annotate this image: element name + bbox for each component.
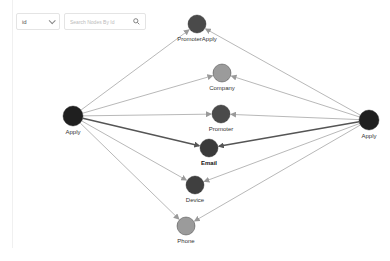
node-apply-left[interactable]: Apply xyxy=(63,106,83,135)
node-circle[interactable] xyxy=(177,217,195,235)
node-circle[interactable] xyxy=(186,176,204,194)
edge-apply-right-email[interactable] xyxy=(219,122,359,147)
node-circle[interactable] xyxy=(212,105,230,123)
node-label: Apply xyxy=(361,133,376,139)
node-phone[interactable]: Phone xyxy=(177,217,195,244)
edge-apply-right-phone[interactable] xyxy=(195,125,361,221)
graph-canvas[interactable]: ApplyApplyPromoterApplyCompanyPromoterEm… xyxy=(0,0,390,261)
node-circle[interactable] xyxy=(200,139,218,157)
node-promoter[interactable]: Promoter xyxy=(209,105,234,132)
node-label: Apply xyxy=(65,129,80,135)
node-label: Promoter xyxy=(209,126,234,132)
node-label: PromoterApply xyxy=(177,36,217,42)
node-circle[interactable] xyxy=(359,110,379,130)
node-layer: ApplyApplyPromoterApplyCompanyPromoterEm… xyxy=(63,15,379,244)
node-circle[interactable] xyxy=(188,15,206,33)
node-promoterapply[interactable]: PromoterApply xyxy=(177,15,217,42)
edge-layer xyxy=(80,29,360,221)
node-label: Email xyxy=(201,160,217,166)
node-circle[interactable] xyxy=(213,64,231,82)
node-device[interactable]: Device xyxy=(186,176,205,203)
edge-apply-left-promoter[interactable] xyxy=(83,114,211,116)
node-apply-right[interactable]: Apply xyxy=(359,110,379,139)
node-company[interactable]: Company xyxy=(209,64,235,91)
node-email[interactable]: Email xyxy=(200,139,218,166)
node-circle[interactable] xyxy=(63,106,83,126)
edge-apply-right-company[interactable] xyxy=(232,76,360,117)
edge-apply-left-email[interactable] xyxy=(83,118,200,145)
node-label: Phone xyxy=(177,238,195,244)
node-label: Device xyxy=(186,197,205,203)
edge-apply-right-device[interactable] xyxy=(204,123,359,181)
edge-apply-right-promoter[interactable] xyxy=(231,114,359,119)
node-label: Company xyxy=(209,85,235,91)
